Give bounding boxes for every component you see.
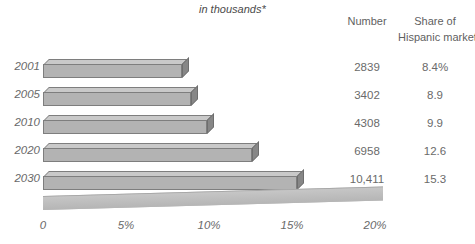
column-header-share-line1: Share of (398, 15, 472, 27)
bar-front-face (43, 176, 297, 190)
table-row: 201043089.9 (0, 112, 475, 140)
column-header-share-line2: Hispanic market (398, 31, 472, 43)
row-number-value: 6958 (337, 145, 397, 157)
axis-tick-label: 5% (106, 219, 146, 231)
row-share-value: 15.3 (398, 173, 472, 185)
row-year-label: 2010 (8, 116, 40, 128)
axis-tick-label: 10% (189, 219, 229, 231)
row-share-value: 8.4% (398, 61, 472, 73)
axis-tick-label: 20% (355, 219, 395, 231)
bar-front-face (43, 92, 191, 106)
row-number-value: 10,411 (337, 173, 397, 185)
axis-tick-label: 0 (23, 219, 63, 231)
column-header-number: Number (337, 15, 397, 27)
row-share-value: 8.9 (398, 89, 472, 101)
bar-front-face (43, 64, 182, 78)
bar-front-face (43, 148, 252, 162)
unit-note-label: in thousands* (199, 3, 266, 15)
row-number-value: 3402 (337, 89, 397, 101)
table-row: 2020695812.6 (0, 140, 475, 168)
row-year-label: 2020 (8, 144, 40, 156)
bar-front-face (43, 120, 207, 134)
row-share-value: 9.9 (398, 117, 472, 129)
row-year-label: 2001 (8, 60, 40, 72)
chart-container: in thousands* Number Share of Hispanic m… (0, 0, 475, 244)
table-row: 200128398.4% (0, 56, 475, 84)
bar-3d (43, 171, 297, 191)
row-year-label: 2005 (8, 88, 40, 100)
table-row: 200534028.9 (0, 84, 475, 112)
row-number-value: 2839 (337, 61, 397, 73)
bar-3d (43, 115, 207, 135)
row-year-label: 2030 (8, 172, 40, 184)
bar-3d (43, 87, 191, 107)
axis-tick-label: 15% (272, 219, 312, 231)
row-number-value: 4308 (337, 117, 397, 129)
bar-3d (43, 59, 182, 79)
bar-3d (43, 143, 252, 163)
row-share-value: 12.6 (398, 145, 472, 157)
